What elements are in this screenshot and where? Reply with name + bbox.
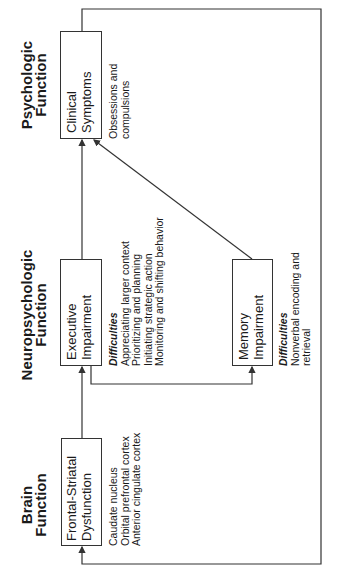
executive-impairment-label: Executive Impairment	[64, 295, 94, 360]
box-label-line: Dysfunction	[79, 456, 94, 541]
header-line: Function	[34, 465, 48, 545]
note-line: compulsions	[120, 64, 132, 139]
note-line: Obsessions and	[108, 64, 120, 139]
clinical-symptoms-label: Clinical Symptoms	[64, 72, 94, 133]
clinical-symptoms-notes: Obsessions and compulsions	[108, 64, 131, 139]
frontal-striatal-notes: Caudate nucleus Orbital prefrontal corte…	[108, 433, 143, 546]
box-label-line: Symptoms	[79, 72, 94, 133]
box-label-line: Clinical	[64, 72, 79, 133]
diagram: Psychologic Function Neuropsychologic Fu…	[0, 0, 337, 582]
header-line: Function	[34, 235, 48, 395]
memory-impairment-label: Memory Impairment	[236, 295, 266, 360]
difficulties-heading: Difficulties	[278, 252, 290, 366]
memory-difficulties-notes: Difficulties Nonverbal encoding and retr…	[278, 252, 313, 366]
header-psychologic-function: Psychologic Function	[20, 20, 48, 150]
frontal-striatal-label: Frontal-Striatal Dysfunction	[64, 456, 94, 541]
note-line: Anterior cingulate cortex	[131, 433, 143, 546]
note-line: Prioritizing and planning	[131, 217, 143, 366]
box-label-line: Memory	[236, 295, 251, 360]
header-brain-function: Brain Function	[20, 465, 48, 545]
header-line: Function	[34, 20, 48, 150]
executive-to-memory-arrow	[91, 365, 252, 384]
box-label-line: Impairment	[79, 295, 94, 360]
box-label-line: Executive	[64, 295, 79, 360]
executive-difficulties-notes: Difficulties Appreciating larger context…	[108, 217, 166, 366]
note-line: Caudate nucleus	[108, 433, 120, 546]
header-neuropsychologic-function: Neuropsychologic Function	[20, 235, 48, 395]
difficulties-heading: Difficulties	[108, 217, 120, 366]
box-label-line: Frontal-Striatal	[64, 456, 79, 541]
note-line: retrieval	[301, 252, 313, 366]
box-label-line: Impairment	[251, 295, 266, 360]
note-line: Monitoring and shifting behavior	[154, 217, 166, 366]
